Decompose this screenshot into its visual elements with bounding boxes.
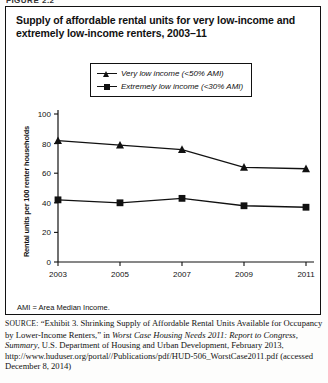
chart-note: AMI = Area Median Income. bbox=[17, 303, 110, 312]
svg-text:40: 40 bbox=[42, 199, 51, 208]
legend-label-very-low-income: Very low income (<50% AMI) bbox=[121, 68, 224, 79]
svg-text:0: 0 bbox=[47, 258, 52, 267]
source-label: SOURCE: bbox=[5, 319, 38, 328]
svg-text:2011: 2011 bbox=[297, 270, 315, 279]
svg-text:2003: 2003 bbox=[49, 270, 67, 279]
chart-legend: Very low income (<50% AMI) Extremely low… bbox=[90, 63, 252, 97]
plot-area: Rental units per 100 renter households 0… bbox=[6, 102, 322, 302]
chart-canvas: 02040608010020032005200720092011 bbox=[6, 102, 322, 302]
figure-tag: FIGURE 2.2 bbox=[6, 0, 55, 3]
legend-item-very-low-income: Very low income (<50% AMI) bbox=[97, 68, 243, 79]
svg-text:20: 20 bbox=[42, 228, 51, 237]
square-marker-icon bbox=[97, 82, 117, 91]
legend-item-extremely-low-income: Extremely low income (<30% AMI) bbox=[97, 81, 243, 92]
source-citation: SOURCE: “Exhibit 3. Shrinking Supply of … bbox=[5, 318, 323, 372]
source-text-part2: , U.S. Department of Housing and Urban D… bbox=[5, 340, 313, 371]
figure-panel: Supply of affordable rental units for ve… bbox=[5, 6, 321, 315]
chart-title: Supply of affordable rental units for ve… bbox=[16, 14, 306, 40]
svg-text:2009: 2009 bbox=[235, 270, 253, 279]
svg-text:100: 100 bbox=[38, 110, 52, 119]
svg-text:80: 80 bbox=[42, 140, 51, 149]
legend-label-extremely-low-income: Extremely low income (<30% AMI) bbox=[121, 81, 243, 92]
triangle-marker-icon bbox=[97, 69, 117, 78]
svg-text:60: 60 bbox=[42, 169, 51, 178]
svg-text:2007: 2007 bbox=[173, 270, 191, 279]
svg-text:2005: 2005 bbox=[111, 270, 129, 279]
